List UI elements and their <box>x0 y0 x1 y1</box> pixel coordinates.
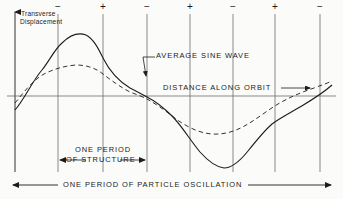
sign-marker-5: − <box>227 2 239 13</box>
period-of-oscillation-label: ONE PERIOD OF PARTICLE OSCILLATION <box>63 181 242 189</box>
average-sine-wave-label: AVERAGE SINE WAVE <box>156 52 250 60</box>
sign-marker-7: − <box>314 2 326 13</box>
y-axis-label-line2: Displacement <box>20 19 62 26</box>
average-sine-wave-curve <box>15 65 332 134</box>
sign-marker-2: + <box>97 2 109 13</box>
period-of-structure-label-line1: ONE PERIOD <box>75 145 131 155</box>
sign-marker-3: − <box>141 2 153 13</box>
sign-marker-4: + <box>184 2 196 13</box>
diagram-canvas <box>0 0 343 199</box>
period-of-structure-label-line2: OF STRUCTURE <box>66 155 136 165</box>
sine-wave-leader-line <box>143 57 155 76</box>
sign-marker-6: + <box>269 2 281 13</box>
wave-diagram-figure: − + − + − + − Transverse Displacement AV… <box>0 0 343 199</box>
y-axis-label-line1: Transverse <box>21 11 56 18</box>
x-axis-label: DISTANCE ALONG ORBIT <box>163 84 271 92</box>
